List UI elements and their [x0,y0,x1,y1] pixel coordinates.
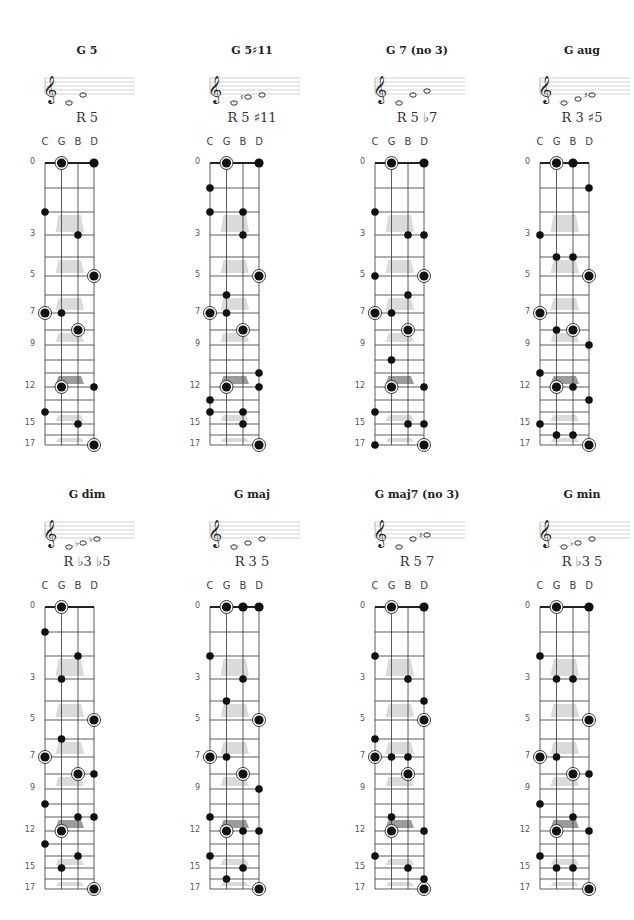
root-note-dot [584,715,593,724]
note-dot [254,602,263,611]
root-note-dot [584,440,593,449]
fretboard [182,44,322,484]
note-dot [255,369,263,377]
note-dot [41,800,49,808]
note-dot [420,875,428,883]
note-dot [371,208,379,216]
root-note-dot [552,158,561,167]
fret-inlay [386,659,415,676]
note-dot [206,652,214,660]
note-dot [585,827,593,835]
root-note-dot [89,884,98,893]
chord-diagram: G maj𝄞R 3 5CGBD03579121517 [182,488,322,920]
note-dot [404,231,412,239]
root-note-dot [205,752,214,761]
fret-inlay [551,215,580,232]
root-note-dot [387,826,396,835]
fret-inlay [221,260,250,273]
note-dot [404,675,412,683]
note-dot [90,383,98,391]
note-dot [206,396,214,404]
note-dot [569,253,577,261]
root-note-dot [419,440,428,449]
note-dot [585,341,593,349]
fretboard [17,44,157,484]
note-dot [90,813,98,821]
root-note-dot [387,602,396,611]
note-dot [239,675,247,683]
note-dot [568,158,577,167]
root-note-dot [57,382,66,391]
root-note-dot [370,308,379,317]
fret-inlay [551,742,580,754]
note-dot [371,408,379,416]
root-note-dot [403,325,412,334]
note-dot [223,291,231,299]
note-dot [420,420,428,428]
note-dot [585,770,593,778]
note-dot [41,628,49,636]
note-dot [223,697,231,705]
fretboard [512,488,634,920]
note-dot [239,864,247,872]
fretboard [17,488,157,920]
fretboard [182,488,322,920]
note-dot [569,383,577,391]
fret-inlay [386,742,415,754]
fret-inlay [551,438,580,442]
note-dot [553,864,561,872]
root-note-dot [254,440,263,449]
note-dot [553,326,561,334]
root-note-dot [552,382,561,391]
root-note-dot [254,884,263,893]
fret-inlay [56,742,85,754]
root-note-dot [419,715,428,724]
note-dot [206,408,214,416]
note-dot [371,272,379,280]
fret-inlay [386,704,415,717]
root-note-dot [568,769,577,778]
fret-inlay [221,859,250,865]
note-dot [420,697,428,705]
fret-inlay [56,415,85,421]
note-dot [569,864,577,872]
chord-diagram: G 7 (no 3)𝄞R 5 ♭7CGBD03579121517 [347,44,487,484]
fretboard [347,44,487,484]
note-dot [388,309,396,317]
chord-diagram: G aug𝄞♯R 3 ♯5CGBD03579121517 [512,44,634,484]
fret-inlay [551,882,580,886]
fret-inlay [56,260,85,273]
root-note-dot [40,308,49,317]
note-dot [223,753,231,761]
root-note-dot [57,602,66,611]
root-note-dot [89,715,98,724]
note-dot [420,231,428,239]
chord-diagram: G maj7 (no 3)𝄞♯R 5 7CGBD03579121517 [347,488,487,920]
root-note-dot [419,884,428,893]
note-dot [255,383,263,391]
note-dot [404,864,412,872]
note-dot [255,827,263,835]
note-dot [420,827,428,835]
root-note-dot [552,826,561,835]
note-dot [371,652,379,660]
note-dot [239,231,247,239]
fret-inlay [551,704,580,717]
note-dot [239,420,247,428]
root-note-dot [584,884,593,893]
fret-inlay [551,298,580,310]
note-dot [404,291,412,299]
note-dot [41,408,49,416]
fret-inlay [386,415,415,421]
note-dot [238,602,247,611]
note-dot [536,231,544,239]
note-dot [536,369,544,377]
fret-inlay [56,215,85,232]
note-dot [371,441,379,449]
note-dot [74,852,82,860]
root-note-dot [40,752,49,761]
root-note-dot [222,602,231,611]
note-dot [569,813,577,821]
note-dot [58,309,66,317]
note-dot [41,840,49,848]
